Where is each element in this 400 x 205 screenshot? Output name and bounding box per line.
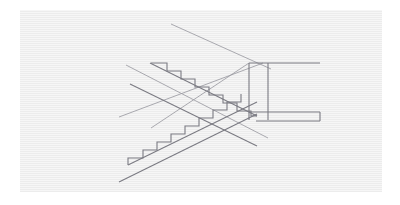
staircase-figure: [20, 10, 382, 192]
upper-flight-stringer-bottom: [130, 84, 257, 146]
landing-shaft-group: [249, 63, 320, 121]
lower-flight-stringer-top: [128, 102, 257, 165]
lower-flight-group: [119, 94, 257, 182]
construction-line-descending: [126, 65, 268, 138]
lower-flight-stringer-bottom: [119, 114, 257, 182]
construction-line-ascending: [119, 63, 263, 117]
drawing-canvas: [0, 0, 400, 205]
drawing-panel: [20, 10, 382, 192]
construction-line-upper-long: [171, 24, 271, 69]
